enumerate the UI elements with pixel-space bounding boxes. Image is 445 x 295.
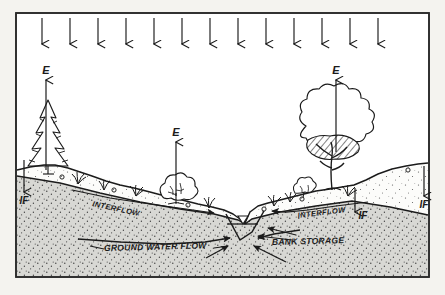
infiltration-label-center-right: IF	[359, 210, 369, 221]
hydrologic-cycle-figure: E E E IF IF IF INTERFLOW INTERFLOW	[0, 0, 445, 295]
infiltration-label-left: IF	[20, 195, 30, 206]
tree-canopy-shading	[307, 135, 360, 159]
infiltration-label-right: IF	[420, 199, 430, 210]
diagram-canvas: E E E IF IF IF INTERFLOW INTERFLOW	[0, 0, 445, 295]
evaporation-label-middle: E	[172, 126, 180, 138]
bank-storage-label: BANK STORAGE	[272, 235, 345, 247]
evaporation-label-right: E	[332, 64, 340, 76]
evaporation-label-left: E	[42, 64, 50, 76]
